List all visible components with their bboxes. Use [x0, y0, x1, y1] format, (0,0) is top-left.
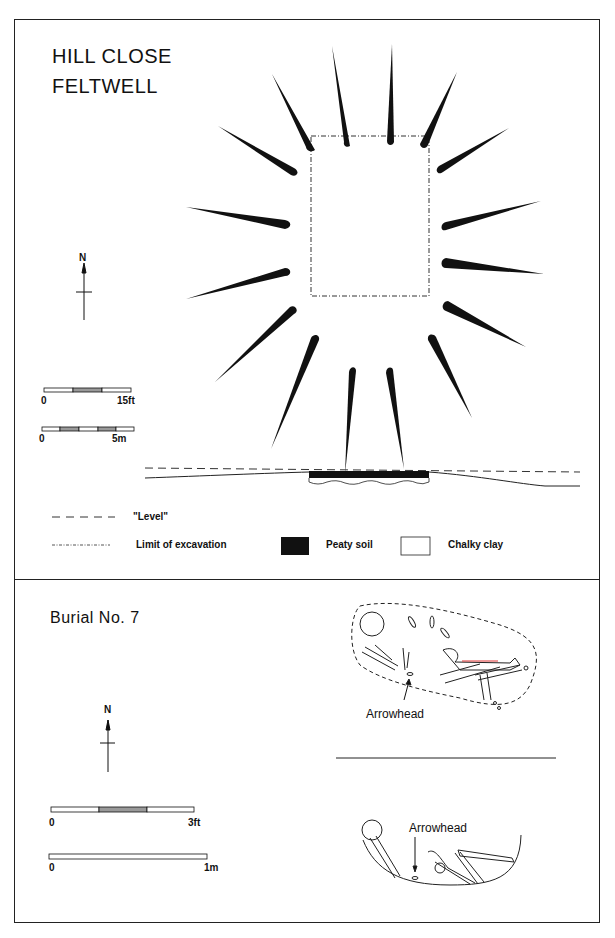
legend-chalky-swatch	[401, 537, 430, 555]
ditch-spikes	[186, 44, 544, 474]
burial-scale-bar-ft	[51, 807, 194, 812]
diagram-drawing	[0, 0, 615, 938]
burial-plan	[352, 603, 537, 709]
burial-north-arrow-icon	[100, 720, 115, 772]
burial-section	[362, 820, 521, 885]
burial-scale-bar-m	[49, 854, 207, 859]
section-profile	[145, 468, 580, 486]
scale-bar-m	[42, 427, 134, 431]
legend-peaty-swatch	[281, 537, 309, 555]
excavation-limit-rect	[311, 136, 429, 296]
north-arrow-icon	[76, 263, 92, 320]
scale-bar-ft	[44, 388, 131, 392]
